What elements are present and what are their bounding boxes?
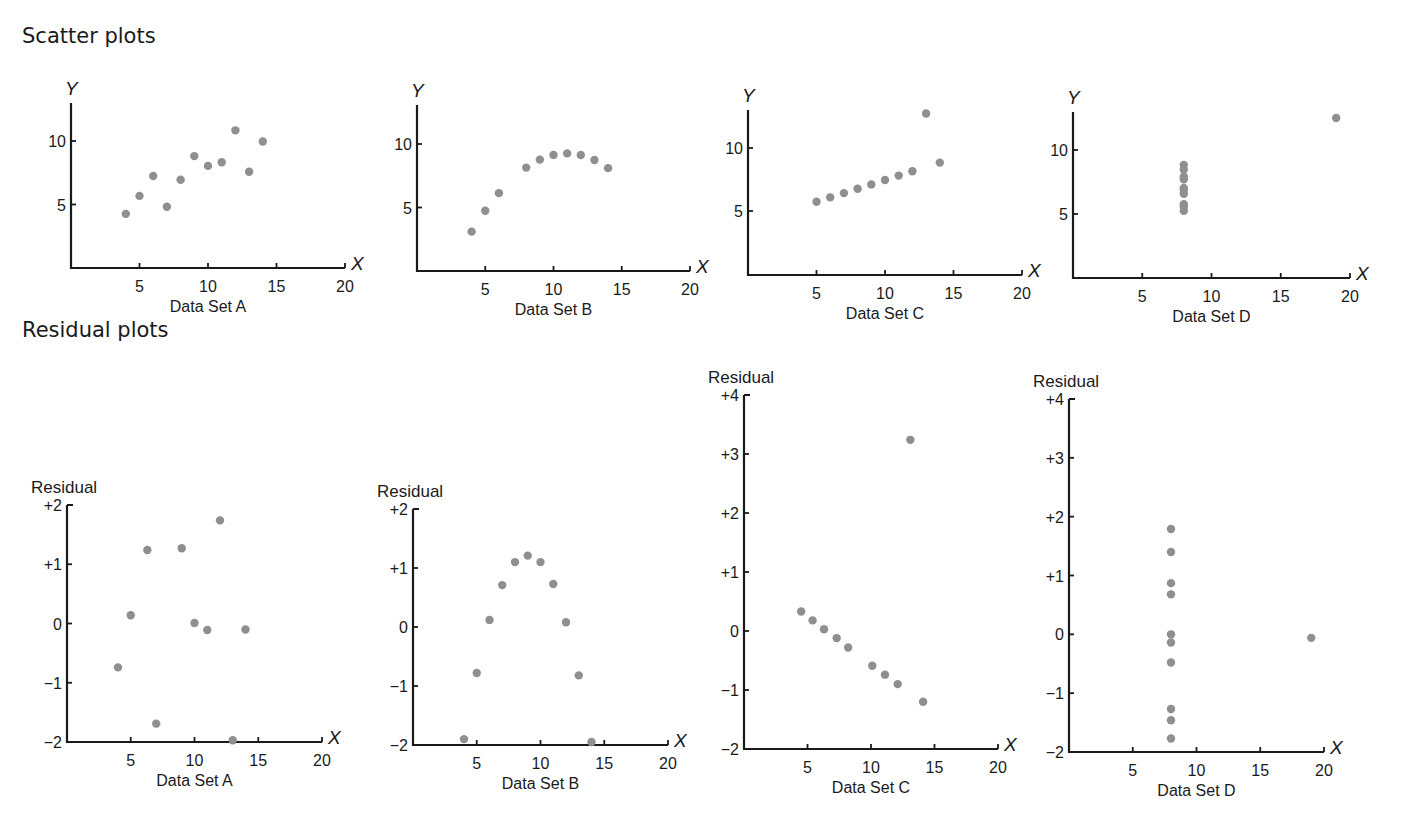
x-axis-title: X <box>1027 260 1042 281</box>
y-tick-label: 0 <box>53 616 62 633</box>
data-point <box>893 680 901 688</box>
data-point <box>536 155 544 163</box>
x-tick-label: 5 <box>472 755 481 772</box>
y-tick-label: −2 <box>44 734 62 751</box>
data-point <box>481 207 489 215</box>
data-point <box>906 436 914 444</box>
data-point <box>895 171 903 179</box>
data-point <box>536 558 544 566</box>
y-tick-label: +1 <box>1046 568 1064 585</box>
x-tick-label: 20 <box>659 755 677 772</box>
x-tick-label: 20 <box>989 759 1007 776</box>
data-point <box>820 625 828 633</box>
y-tick-label: 5 <box>403 200 412 217</box>
x-tick-label: 15 <box>268 278 286 295</box>
data-point <box>163 203 171 211</box>
plot-scatter-a: 5101520510XYData Set A <box>48 78 365 315</box>
y-tick-label: −1 <box>390 678 408 695</box>
y-tick-label: 0 <box>1055 626 1064 643</box>
data-point <box>203 626 211 634</box>
x-tick-label: 20 <box>1013 285 1031 302</box>
data-point <box>241 625 249 633</box>
data-point <box>149 172 157 180</box>
y-tick-label: +3 <box>1046 450 1064 467</box>
x-tick-label: 10 <box>876 285 894 302</box>
data-point <box>204 162 212 170</box>
y-tick-label: 0 <box>399 619 408 636</box>
data-point <box>797 607 805 615</box>
y-axis-title: Residual <box>708 368 774 387</box>
x-tick-label: 15 <box>595 755 613 772</box>
plot-scatter-d: 5101520510XYData Set D <box>1050 87 1370 325</box>
dataset-caption: Data Set C <box>832 779 910 796</box>
y-tick-label: 5 <box>57 197 66 214</box>
data-point <box>511 558 519 566</box>
x-tick-label: 15 <box>249 752 267 769</box>
y-tick-label: 5 <box>1059 206 1068 223</box>
y-tick-label: +4 <box>721 387 739 404</box>
plot-scatter-b: 5101520510XYData Set B <box>394 80 710 318</box>
data-point <box>853 184 861 192</box>
x-tick-label: 10 <box>1188 762 1206 779</box>
data-point <box>178 544 186 552</box>
data-point <box>604 164 612 172</box>
data-point <box>1167 658 1175 666</box>
data-point <box>122 210 130 218</box>
dataset-caption: Data Set A <box>156 772 233 789</box>
data-point <box>908 167 916 175</box>
x-tick-label: 20 <box>1315 762 1333 779</box>
data-point <box>1180 173 1188 181</box>
data-point <box>522 163 530 171</box>
data-point <box>1167 638 1175 646</box>
x-tick-label: 10 <box>545 281 563 298</box>
data-point <box>1167 630 1175 638</box>
x-axis-title: X <box>1355 263 1370 284</box>
x-tick-label: 5 <box>803 759 812 776</box>
data-point <box>587 738 595 746</box>
data-point <box>562 618 570 626</box>
x-tick-label: 15 <box>945 285 963 302</box>
x-axis-title: X <box>1329 737 1344 758</box>
x-tick-label: 20 <box>681 281 699 298</box>
dataset-caption: Data Set D <box>1157 782 1235 799</box>
plot-residual-b: 5101520−2−10+1+2XResidualData Set B <box>377 482 688 792</box>
data-point <box>467 227 475 235</box>
data-point <box>590 156 598 164</box>
dataset-caption: Data Set D <box>1172 308 1250 325</box>
x-tick-label: 15 <box>1251 762 1269 779</box>
data-point <box>808 616 816 624</box>
data-point <box>495 189 503 197</box>
data-point <box>826 193 834 201</box>
data-point <box>1167 590 1175 598</box>
x-tick-label: 10 <box>199 278 217 295</box>
x-tick-label: 5 <box>812 285 821 302</box>
data-point <box>190 152 198 160</box>
dataset-caption: Data Set B <box>502 775 579 792</box>
y-axis-title: Residual <box>377 482 443 501</box>
y-tick-label: −2 <box>1046 744 1064 761</box>
y-tick-label: +2 <box>1046 509 1064 526</box>
y-tick-label: −1 <box>1046 685 1064 702</box>
y-axis-title: Residual <box>1033 372 1099 391</box>
x-tick-label: 5 <box>1138 288 1147 305</box>
data-point <box>524 551 532 559</box>
data-point <box>867 180 875 188</box>
y-tick-label: +2 <box>44 497 62 514</box>
data-point <box>922 109 930 117</box>
data-point <box>152 719 160 727</box>
data-point <box>1180 184 1188 192</box>
x-tick-label: 5 <box>1128 762 1137 779</box>
plot-residual-c: 5101520−2−10+1+2+3+4XResidualData Set C <box>708 368 1018 796</box>
data-point <box>259 137 267 145</box>
data-point <box>460 735 468 743</box>
data-point <box>498 581 506 589</box>
y-axis-title: Residual <box>31 478 97 497</box>
data-point <box>1167 716 1175 724</box>
dataset-caption: Data Set B <box>515 301 592 318</box>
x-axis-title: X <box>695 256 710 277</box>
x-axis-title: X <box>673 730 688 751</box>
y-tick-label: −2 <box>721 741 739 758</box>
data-point <box>190 619 198 627</box>
y-tick-label: 0 <box>730 623 739 640</box>
y-tick-label: −1 <box>44 675 62 692</box>
